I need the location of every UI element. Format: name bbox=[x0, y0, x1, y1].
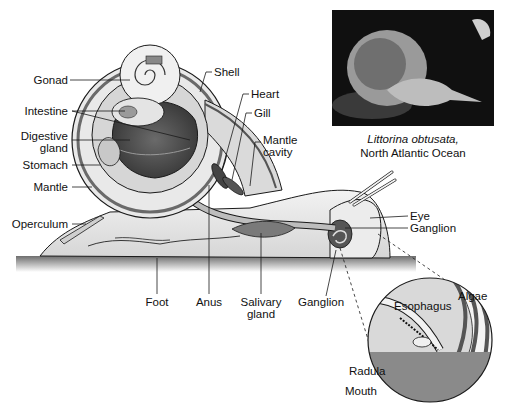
label-intestine: Intestine bbox=[6, 105, 68, 117]
label-ganglion-lower: Ganglion bbox=[298, 296, 344, 308]
photo-caption: Littorina obtusata, North Atlantic Ocean bbox=[318, 132, 505, 160]
littorina-photo-image bbox=[332, 10, 494, 126]
label-operculum: Operculum bbox=[0, 218, 68, 230]
label-eye: Eye bbox=[410, 210, 430, 222]
label-anus: Anus bbox=[189, 296, 229, 308]
label-mantle-cavity: Mantle cavity bbox=[263, 134, 298, 158]
label-algae: Algae bbox=[458, 290, 487, 302]
label-gill: Gill bbox=[254, 107, 271, 119]
species-name: Littorina obtusata, bbox=[318, 132, 505, 146]
gonad-whorl bbox=[120, 45, 180, 105]
label-esophagus: Esophagus bbox=[394, 300, 452, 312]
label-heart: Heart bbox=[251, 88, 279, 100]
label-mouth: Mouth bbox=[345, 385, 377, 397]
location: North Atlantic Ocean bbox=[318, 146, 505, 160]
label-mantle: Mantle bbox=[6, 181, 68, 193]
label-shell: Shell bbox=[214, 66, 240, 78]
label-ganglion-head: Ganglion bbox=[410, 222, 456, 234]
snail-photo bbox=[332, 10, 494, 126]
label-radula: Radula bbox=[349, 365, 385, 377]
label-stomach: Stomach bbox=[6, 159, 68, 171]
label-salivary-gland: Salivary gland bbox=[236, 296, 286, 320]
label-digestive-gland: Digestive gland bbox=[6, 130, 68, 154]
label-foot: Foot bbox=[137, 296, 177, 308]
label-gonad: Gonad bbox=[14, 74, 68, 86]
